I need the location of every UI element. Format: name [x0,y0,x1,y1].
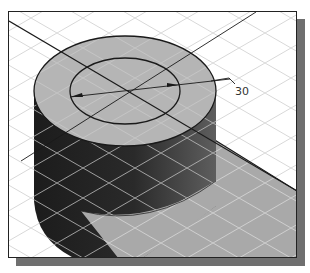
cad-viewport: 30 [8,11,297,258]
dimension-label: 30 [235,85,249,98]
cylinder-drawing: 30 [9,12,296,257]
